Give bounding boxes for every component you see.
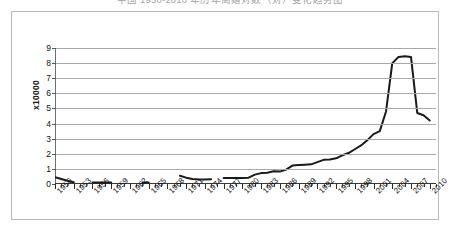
- chart-title-strip: 中国 1950-2010 年历年离婚对数（对）变化趋势图: [0, 0, 460, 9]
- data-series-line: [55, 48, 436, 184]
- y-tick-label-4: 4: [38, 119, 51, 128]
- y-tick-mark-8: [52, 63, 56, 64]
- gridline-3: [55, 139, 436, 140]
- chart-title: 中国 1950-2010 年历年离婚对数（对）变化趋势图: [0, 0, 460, 6]
- y-tick-label-3: 3: [38, 134, 51, 143]
- y-tick-label-6: 6: [38, 89, 51, 98]
- gridline-6: [55, 93, 436, 94]
- y-tick-mark-4: [52, 124, 56, 125]
- y-tick-label-5: 5: [38, 104, 51, 113]
- y-tick-mark-7: [52, 78, 56, 79]
- plot-area: [55, 48, 436, 184]
- y-tick-mark-5: [52, 108, 56, 109]
- gridline-9: [55, 48, 436, 49]
- y-axis-tick-labels: 0123456789: [38, 48, 51, 184]
- gridline-2: [55, 154, 436, 155]
- y-tick-label-8: 8: [38, 59, 51, 68]
- y-tick-label-9: 9: [38, 44, 51, 53]
- x-axis-tick-labels: 1950195319561959196219651968197119741977…: [55, 189, 436, 229]
- y-tick-label-2: 2: [38, 150, 51, 159]
- y-tick-mark-9: [52, 48, 56, 49]
- gridline-8: [55, 63, 436, 64]
- y-tick-mark-3: [52, 139, 56, 140]
- y-tick-mark-2: [52, 154, 56, 155]
- gridline-4: [55, 124, 436, 125]
- y-tick-label-0: 0: [38, 180, 51, 189]
- chart-screenshot: 中国 1950-2010 年历年离婚对数（对）变化趋势图 x10000 0123…: [0, 0, 460, 241]
- y-tick-mark-1: [52, 169, 56, 170]
- gridline-5: [55, 108, 436, 109]
- chart-frame: x10000 0123456789 1950195319561959196219…: [11, 11, 439, 220]
- gridline-1: [55, 169, 436, 170]
- y-tick-label-7: 7: [38, 74, 51, 83]
- y-tick-label-1: 1: [38, 165, 51, 174]
- y-tick-mark-6: [52, 93, 56, 94]
- gridline-7: [55, 78, 436, 79]
